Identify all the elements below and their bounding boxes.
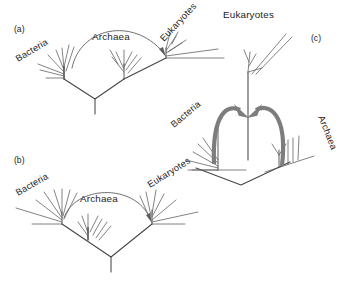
phylogeny-figure: (a) Bacteria Archaea Eukaryotes [0,0,354,286]
thick-arc-arrow-bacteria-to-eukaryotes-c [214,104,249,164]
panel-a-bacteria-label: Bacteria [14,36,50,63]
panel-a-label: (a) [14,24,25,34]
panel-a-archaea-clade [110,50,141,79]
panel-a-eukaryotes-clade [166,32,224,58]
thick-arc-arrow-archaea-to-eukaryotes-c [247,104,283,166]
panel-b-eukaryotes-label: Eukaryotes [146,155,193,189]
panel-a-archaea-label: Archaea [92,31,130,42]
panel-c-label: (c) [311,33,321,43]
figure-canvas: (a) Bacteria Archaea Eukaryotes [0,0,354,286]
panel-c-eukaryotes-label: Eukaryotes [223,9,274,20]
panel-a: (a) Bacteria Archaea Eukaryotes [14,1,224,114]
panel-a-tree-backbone [64,58,166,114]
panel-b-archaea-clade [78,214,111,240]
panel-b-label: (b) [14,155,25,165]
panel-b-eukaryotes-clade [140,190,198,224]
panel-c-archaea-label: Archaea [316,114,339,152]
panel-c-ground-lines [188,156,314,185]
panel-c-bacteria-label: Bacteria [169,99,203,130]
panel-b-bacteria-clade [16,189,77,224]
panel-c: (c) Eukaryotes Bacteria Archaea [169,9,339,185]
panel-b-archaea-label: Archaea [80,193,118,204]
panel-b: (b) Bacteria Archaea Eukaryotes [14,155,198,272]
panel-a-eukaryotes-label: Eukaryotes [158,1,198,43]
panel-a-bacteria-clade [38,45,74,79]
